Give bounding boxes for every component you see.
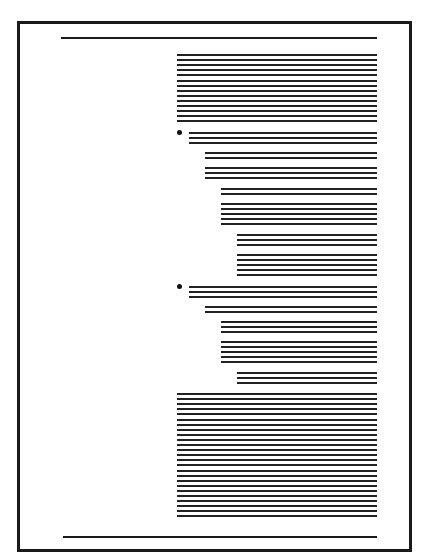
text-line (189, 132, 377, 134)
text-line (237, 372, 377, 374)
text-line (189, 291, 377, 293)
text-line (177, 500, 377, 502)
header-rule (61, 37, 377, 39)
text-line (177, 490, 377, 492)
text-line (237, 234, 377, 236)
text-line (221, 321, 377, 323)
text-line (177, 90, 377, 92)
footer-rule (63, 536, 377, 538)
text-line (189, 286, 377, 288)
text-line (237, 382, 377, 384)
text-line (177, 54, 377, 56)
text-line (177, 515, 377, 517)
text-line (189, 137, 377, 139)
text-line (177, 110, 377, 112)
text-line (177, 495, 377, 497)
text-line (177, 69, 377, 71)
text-line (177, 398, 377, 400)
text-line (177, 115, 377, 117)
text-line (237, 274, 377, 276)
text-line (205, 311, 377, 313)
text-line (177, 403, 377, 405)
text-line (177, 424, 377, 426)
text-line (177, 480, 377, 482)
bullet-icon (177, 130, 182, 135)
text-line (177, 393, 377, 395)
text-line (221, 351, 377, 353)
text-line (237, 269, 377, 271)
text-line (221, 188, 377, 190)
text-line (221, 356, 377, 358)
text-line (189, 142, 377, 144)
text-line (177, 510, 377, 512)
text-line (221, 218, 377, 220)
text-line (237, 259, 377, 261)
text-line (237, 244, 377, 246)
text-line (177, 59, 377, 61)
text-line (177, 74, 377, 76)
text-line (177, 413, 377, 415)
text-line (221, 193, 377, 195)
text-line (177, 439, 377, 441)
text-line (177, 459, 377, 461)
text-line (177, 408, 377, 410)
text-line (177, 454, 377, 456)
text-line (177, 475, 377, 477)
text-line (177, 434, 377, 436)
text-line (177, 449, 377, 451)
text-line (177, 120, 377, 122)
text-line (177, 505, 377, 507)
text-line (221, 341, 377, 343)
text-line (205, 157, 377, 159)
text-line (237, 264, 377, 266)
text-line (205, 306, 377, 308)
text-line (177, 85, 377, 87)
text-line (221, 213, 377, 215)
text-line (177, 464, 377, 466)
text-line (221, 208, 377, 210)
text-line (205, 172, 377, 174)
text-line (221, 326, 377, 328)
text-line (221, 223, 377, 225)
text-line (177, 485, 377, 487)
text-line (237, 254, 377, 256)
text-line (177, 100, 377, 102)
text-line (177, 80, 377, 82)
text-line (221, 361, 377, 363)
text-line (177, 95, 377, 97)
bullet-icon (177, 284, 182, 289)
text-line (177, 419, 377, 421)
text-line (177, 470, 377, 472)
text-line (221, 203, 377, 205)
text-line (177, 444, 377, 446)
text-line (237, 239, 377, 241)
text-line (205, 152, 377, 154)
text-line (205, 167, 377, 169)
text-line (221, 346, 377, 348)
text-line (205, 177, 377, 179)
text-line (177, 105, 377, 107)
text-line (177, 64, 377, 66)
text-line (177, 429, 377, 431)
text-line (189, 296, 377, 298)
text-line (221, 331, 377, 333)
text-line (237, 377, 377, 379)
